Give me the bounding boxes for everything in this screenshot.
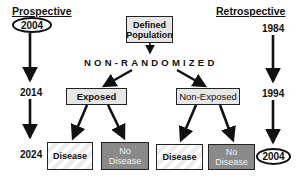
non-exposed-no-disease-box: No Disease <box>208 144 255 170</box>
non-exposed-no-disease-line2: Disease <box>215 157 248 167</box>
retrospective-year-mid: 1994 <box>262 88 284 99</box>
exposed-no-disease-box: No Disease <box>101 142 149 170</box>
non-exposed-no-disease-line1: No <box>226 147 238 157</box>
arrow-nonexposed-disease <box>181 105 196 140</box>
exposed-disease-label: Disease <box>53 151 87 161</box>
prospective-year-end: 2024 <box>20 149 42 160</box>
retrospective-title: Retrospective <box>216 5 285 17</box>
arrow-nonexposed-no-disease <box>220 105 233 140</box>
arrow-exposed-no-disease <box>108 105 124 138</box>
exposed-box: Exposed <box>66 88 127 105</box>
exposed-no-disease-line2: Disease <box>109 156 142 166</box>
defined-population-line1: Defined <box>133 20 166 30</box>
exposed-disease-box: Disease <box>47 142 93 170</box>
prospective-start-year-ellipse: 2004 <box>12 17 52 33</box>
retrospective-year-start: 1984 <box>262 23 284 34</box>
prospective-year-mid: 2014 <box>20 87 42 98</box>
non-exposed-disease-label: Disease <box>162 152 196 162</box>
exposed-no-disease-line1: No <box>119 146 131 156</box>
non-exposed-box: Non-Exposed <box>176 88 240 105</box>
non-exposed-disease-box: Disease <box>156 144 203 170</box>
non-randomized-banner: NON-RANDOMIZED <box>84 57 217 68</box>
defined-population-box: Defined Population <box>126 16 173 43</box>
arrow-to-non-exposed <box>177 70 205 86</box>
retrospective-end-year-ellipse: 2004 <box>256 148 291 165</box>
arrow-exposed-disease <box>73 105 87 138</box>
defined-population-line2: Population <box>126 30 173 40</box>
arrow-to-exposed <box>104 70 132 86</box>
prospective-title: Prospective <box>12 5 72 17</box>
